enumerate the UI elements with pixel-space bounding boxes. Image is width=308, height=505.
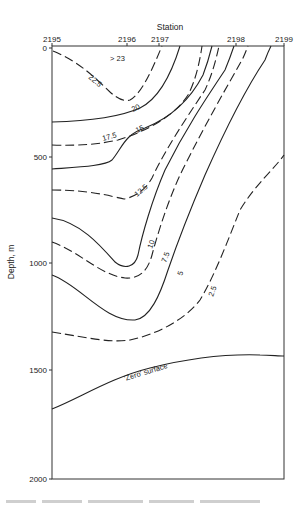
- x-tick-2198: 2198: [227, 35, 245, 44]
- contour-labels: > 23 22.5 20 17.5 15 12.5 10 7.5 5 2.5 '…: [87, 54, 219, 383]
- label-7-5: 7.5: [159, 251, 171, 264]
- x-tick-2197: 2197: [151, 35, 169, 44]
- label-gt23: > 23: [110, 54, 125, 63]
- contour-12-5: [52, 46, 219, 199]
- contour-22-5: [53, 46, 162, 101]
- y-tick-1500: 1500: [29, 366, 47, 375]
- zero-surface: [52, 355, 284, 409]
- x-tick-2199: 2199: [275, 35, 293, 44]
- contour-chart: Station Depth, m 2195 2196 2197 2198 219…: [0, 0, 308, 505]
- y-tick-1000: 1000: [29, 259, 47, 268]
- label-2-5: 2.5: [206, 285, 218, 298]
- label-20: 20: [130, 102, 141, 114]
- figure-caption-faded: [6, 492, 302, 498]
- contour-10: [52, 46, 234, 266]
- y-axis: 0 500 1000 1500 2000: [29, 44, 52, 484]
- label-22-5: 22.5: [87, 73, 104, 89]
- x-tick-2195: 2195: [43, 35, 61, 44]
- label-5: 5: [175, 270, 185, 277]
- contour-2-5: [52, 155, 284, 341]
- y-tick-500: 500: [34, 153, 48, 162]
- x-axis: 2195 2196 2197 2198 2199: [43, 35, 293, 46]
- y-tick-0: 0: [43, 44, 48, 53]
- label-12-5: 12.5: [133, 182, 150, 198]
- x-axis-title: Station: [157, 22, 184, 32]
- label-17-5: 17.5: [101, 130, 117, 142]
- x-tick-2196: 2196: [118, 35, 136, 44]
- label-zero-surface: 'Zero' surface: [123, 361, 169, 383]
- label-10: 10: [145, 239, 156, 250]
- contour-lines: [52, 46, 284, 409]
- contour-17-5: [52, 46, 202, 145]
- y-tick-2000: 2000: [29, 475, 47, 484]
- y-axis-title: Depth, m: [6, 245, 16, 280]
